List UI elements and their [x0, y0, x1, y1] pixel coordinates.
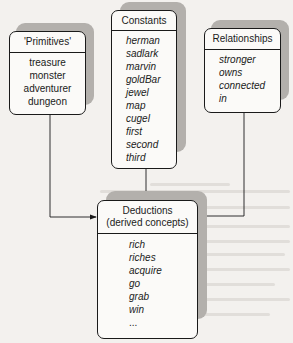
item: in [219, 92, 280, 105]
node-items: rich riches acquire go grab win ... [98, 234, 197, 329]
node-relationships: Relationships stronger owns connected in [204, 28, 281, 113]
node-title-line1: Deductions [98, 205, 197, 217]
item: herman [126, 34, 176, 47]
item: connected [219, 79, 280, 92]
item: grab [129, 290, 197, 303]
node-title: Relationships [205, 29, 280, 50]
item: second [126, 138, 176, 151]
node-title: 'Primitives' [10, 32, 85, 53]
item: monster [10, 69, 85, 82]
item: map [126, 99, 176, 112]
item: go [129, 277, 197, 290]
item: jewel [126, 86, 176, 99]
edge-primitives-deductions [50, 114, 96, 217]
node-deductions: Deductions (derived concepts) rich riche… [97, 200, 198, 339]
item: third [126, 151, 176, 164]
item: dungeon [10, 95, 85, 108]
item: goldBar [126, 73, 176, 86]
item: marvin [126, 60, 176, 73]
item: cugel [126, 112, 176, 125]
item: stronger [219, 53, 280, 66]
item: sadlark [126, 47, 176, 60]
item: acquire [129, 264, 197, 277]
item: rich [129, 238, 197, 251]
item: riches [129, 251, 197, 264]
item: treasure [10, 56, 85, 69]
item: ... [129, 316, 197, 329]
node-title-line2: (derived concepts) [98, 217, 197, 229]
node-items: herman sadlark marvin goldBar jewel map … [112, 31, 176, 164]
node-title: Deductions (derived concepts) [98, 201, 197, 234]
node-title: Constants [112, 11, 176, 31]
item: owns [219, 66, 280, 79]
node-constants: Constants herman sadlark marvin goldBar … [111, 10, 177, 169]
node-items: stronger owns connected in [205, 50, 280, 105]
item: adventurer [10, 82, 85, 95]
node-items: treasure monster adventurer dungeon [10, 53, 85, 108]
node-primitives: 'Primitives' treasure monster adventurer… [9, 31, 86, 115]
item: first [126, 125, 176, 138]
item: win [129, 303, 197, 316]
